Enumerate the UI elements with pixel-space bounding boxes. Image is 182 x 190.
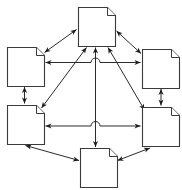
- diagram-svg: [0, 0, 182, 190]
- edge-bottom-lowerright[interactable]: [118, 148, 151, 161]
- document-fold-corner-icon: [110, 149, 118, 157]
- edge-lowerleft-lowerright[interactable]: [46, 122, 141, 127]
- edge-lowerleft-top[interactable]: [42, 48, 87, 109]
- edge-upperleft-top[interactable]: [45, 30, 77, 53]
- node-document-top[interactable]: [79, 8, 116, 47]
- edge-lowerright-top[interactable]: [108, 48, 145, 111]
- diagram-canvas: [0, 0, 182, 190]
- node-document-upper-left[interactable]: [8, 48, 45, 87]
- node-document-lower-left[interactable]: [8, 106, 45, 145]
- node-document-lower-right[interactable]: [143, 108, 180, 147]
- node-document-bottom[interactable]: [81, 149, 118, 188]
- edge-lowerleft-bottom[interactable]: [26, 146, 80, 161]
- edge-upperleft-upperright[interactable]: [46, 58, 141, 63]
- edge-upperright-top[interactable]: [117, 31, 142, 54]
- document-fold-corner-icon: [37, 48, 45, 56]
- node-layer: [8, 8, 180, 188]
- node-document-upper-right[interactable]: [143, 50, 180, 89]
- document-fold-corner-icon: [172, 108, 180, 116]
